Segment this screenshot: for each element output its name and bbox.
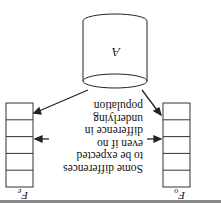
diagram: A Fo Fe Some differences to be expected …: [0, 0, 221, 203]
population-label: A: [112, 44, 120, 60]
caption: Some differences to be expected even if …: [39, 100, 143, 175]
right-sample-grid: [6, 103, 33, 187]
caption-line: difference in underlying: [39, 113, 143, 138]
left-sample-grid: [163, 103, 190, 187]
caption-line: to be expected: [39, 150, 143, 163]
caption-line: even if no: [39, 138, 143, 151]
right-sample-label: Fe: [18, 187, 28, 202]
left-sample-label: Fo: [174, 187, 185, 202]
caption-line: Some differences: [39, 163, 143, 176]
caption-line: population: [39, 100, 143, 113]
